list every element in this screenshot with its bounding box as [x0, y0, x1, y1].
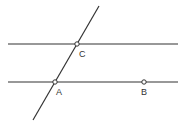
label-a: A: [56, 87, 62, 97]
geometry-diagram: C A B: [0, 0, 184, 129]
label-b: B: [141, 87, 147, 97]
point-a: [53, 80, 57, 84]
label-c: C: [79, 49, 86, 59]
line-transversal: [33, 6, 99, 120]
point-c: [75, 42, 79, 46]
point-b: [142, 80, 146, 84]
